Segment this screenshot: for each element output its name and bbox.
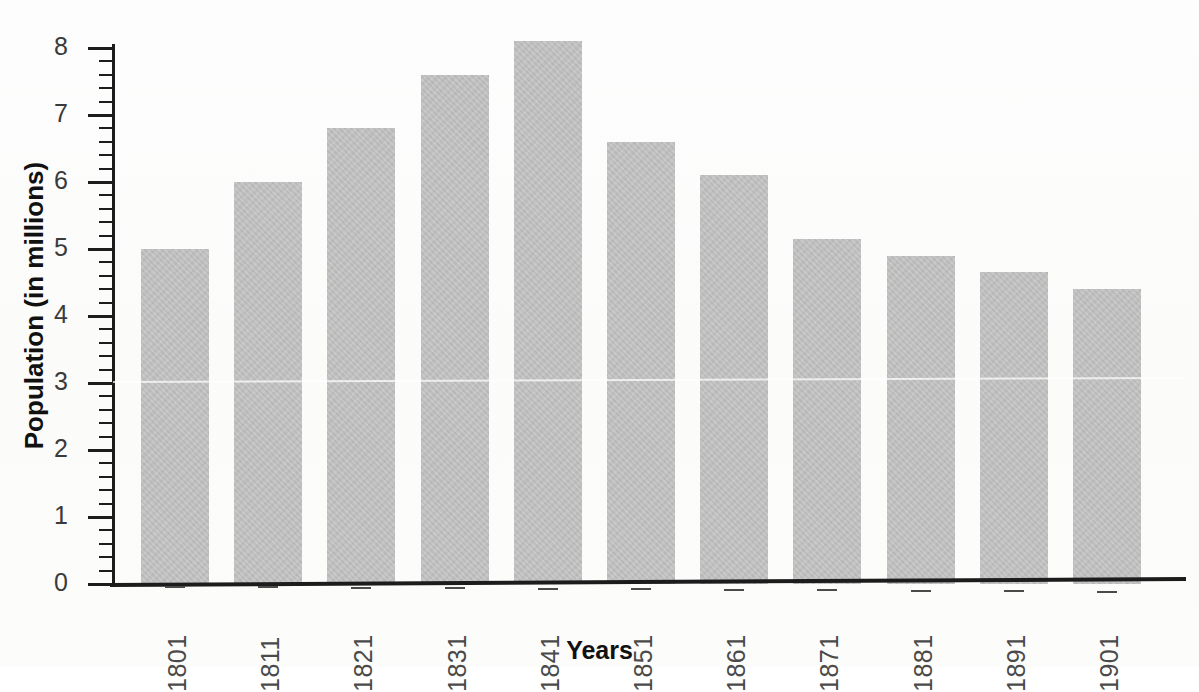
bar (980, 272, 1048, 584)
x-tick-mark (538, 588, 558, 590)
bar (1073, 289, 1141, 584)
y-tick-major (88, 47, 114, 50)
x-tick-mark (1004, 590, 1024, 592)
bar (607, 142, 675, 584)
y-tick-major (88, 248, 114, 251)
y-tick-label: 7 (28, 99, 68, 128)
bars-layer (112, 40, 1186, 584)
bar (421, 75, 489, 584)
x-tick-mark (258, 586, 278, 588)
y-tick-label: 1 (28, 501, 68, 530)
y-tick-major (88, 114, 114, 117)
y-tick-label: 0 (28, 568, 68, 597)
y-tick-major (88, 516, 114, 519)
x-tick-mark (351, 587, 371, 589)
bar (700, 175, 768, 584)
y-tick-major (88, 449, 114, 452)
x-tick-mark (445, 587, 465, 589)
x-tick-mark (911, 590, 931, 592)
bar (514, 41, 582, 584)
x-tick-mark (165, 586, 185, 588)
y-tick-label: 8 (28, 32, 68, 61)
bar (234, 182, 302, 584)
bar (793, 239, 861, 584)
y-tick-major (88, 315, 114, 318)
x-tick-mark (1097, 591, 1117, 593)
y-tick-major (88, 382, 114, 385)
bar (141, 249, 209, 584)
y-tick-major (88, 181, 114, 184)
x-tick-mark (817, 589, 837, 591)
bar (887, 256, 955, 584)
x-tick-mark (724, 589, 744, 591)
x-tick-mark (631, 588, 651, 590)
bar (327, 128, 395, 584)
x-axis-title: Years (0, 636, 1199, 665)
y-axis-title: Population (in millions) (19, 126, 50, 486)
